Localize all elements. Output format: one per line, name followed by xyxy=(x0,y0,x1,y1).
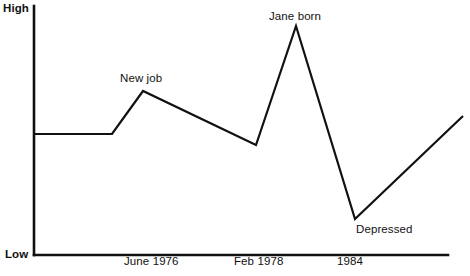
y-axis-label-high: High xyxy=(3,2,29,15)
mood-line-series xyxy=(34,26,463,219)
annotation-new-job: New job xyxy=(120,72,162,85)
annotation-jane-born: Jane born xyxy=(269,10,321,23)
x-axis-tick-label-june-1976: June 1976 xyxy=(124,255,179,268)
annotation-depressed: Depressed xyxy=(356,223,413,236)
x-axis-tick-label-feb-1978: Feb 1978 xyxy=(234,255,283,268)
chart-page: High Low June 1976 Feb 1978 1984 New job… xyxy=(0,0,470,276)
x-axis-tick-label-1984: 1984 xyxy=(337,255,363,268)
y-axis-label-low: Low xyxy=(5,248,28,261)
